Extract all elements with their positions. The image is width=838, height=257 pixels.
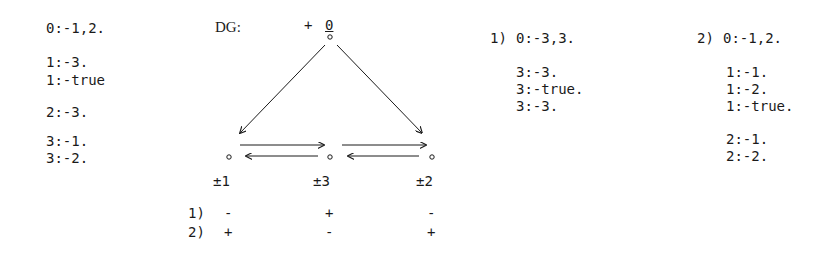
program-line: 2:-1. bbox=[726, 131, 768, 147]
assignment-label: 1) bbox=[188, 205, 205, 221]
node-label-1: ±1 bbox=[213, 173, 230, 189]
sign-node-3: + bbox=[325, 205, 333, 221]
node-label-2: ±2 bbox=[416, 173, 433, 189]
sign-node-2: + bbox=[427, 224, 435, 240]
sign-node-1: + bbox=[224, 224, 232, 240]
program-line: 3:-3. bbox=[516, 64, 558, 80]
node-2-icon bbox=[430, 155, 434, 159]
edge-0-1-arrow bbox=[240, 45, 325, 133]
program-line: 1:-2. bbox=[726, 81, 768, 97]
program-line: 0:-3,3. bbox=[516, 30, 575, 46]
node-0-icon bbox=[328, 35, 332, 39]
program-label: 1) bbox=[490, 30, 507, 46]
program-line: 1:-1. bbox=[726, 64, 768, 80]
program-line: 1:-true. bbox=[726, 98, 793, 114]
sign-node-2: - bbox=[427, 205, 435, 221]
node-3-icon bbox=[328, 155, 332, 159]
node-1-icon bbox=[227, 155, 231, 159]
edge-0-2-arrow bbox=[337, 45, 422, 133]
sign-node-3: - bbox=[325, 224, 333, 240]
program-line: 0:-1,2. bbox=[723, 30, 782, 46]
assignment-label: 2) bbox=[188, 224, 205, 240]
program-line: 3:-3. bbox=[516, 98, 558, 114]
sign-node-1: - bbox=[224, 205, 232, 221]
node-label-3: ±3 bbox=[313, 173, 330, 189]
program-line: 2:-2. bbox=[726, 148, 768, 164]
program-line: 3:-true. bbox=[516, 81, 583, 97]
program-label: 2) bbox=[697, 30, 714, 46]
